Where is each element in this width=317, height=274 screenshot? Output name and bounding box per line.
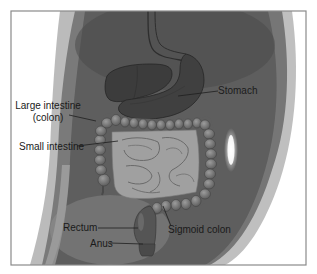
small-intestine-label: Small intestine (19, 141, 84, 152)
large-intestine-label-line1: Large intestine (14, 100, 82, 111)
large-intestine-label-line2: (colon) (14, 112, 82, 123)
sigmoid-colon-label: Sigmoid colon (168, 224, 231, 235)
digestive-system-figure: Stomach Large intestine (colon) Small in… (0, 0, 317, 274)
stomach-label: Stomach (218, 85, 257, 96)
small-intestine-organ (112, 130, 199, 199)
rectum-label: Rectum (63, 222, 97, 233)
anus-label: Anus (90, 238, 113, 249)
anus-organ (139, 244, 155, 256)
anatomy-illustration (0, 0, 317, 274)
large-intestine-label: Large intestine (colon) (14, 100, 82, 123)
